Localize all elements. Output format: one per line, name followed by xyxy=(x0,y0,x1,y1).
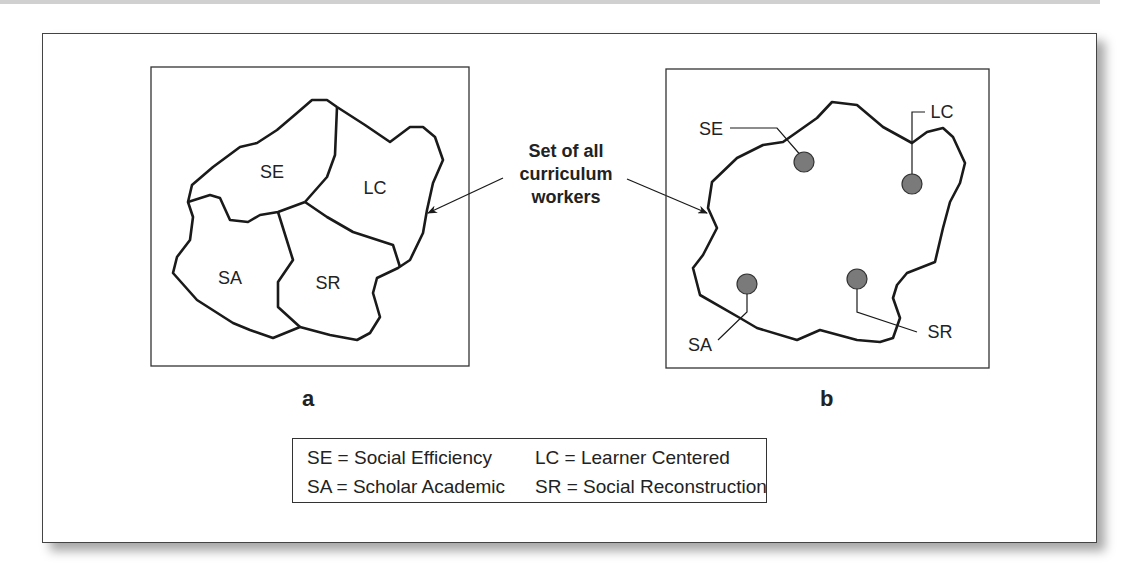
legend: SE = Social Efficiency LC = Learner Cent… xyxy=(292,438,767,503)
legend-item-lc: LC = Learner Centered xyxy=(535,445,767,473)
callout-line-sa xyxy=(718,293,747,340)
point-label-se: SE xyxy=(699,119,723,139)
legend-item-sa: SA = Scholar Academic xyxy=(307,474,535,502)
callout-line-lc xyxy=(912,112,925,176)
boundary-lc-sr xyxy=(305,202,400,267)
region-label-se: SE xyxy=(260,162,284,182)
callout-line-se xyxy=(730,128,803,158)
annotation-line-1: Set of all xyxy=(528,141,603,161)
panel-b-label: b xyxy=(820,386,833,412)
panel-a: SE LC SA SR xyxy=(151,67,469,366)
point-label-sa: SA xyxy=(688,335,712,355)
annotation: Set of all curriculum workers xyxy=(428,141,707,213)
arrow-right-icon xyxy=(627,179,707,213)
boundary-se-lc xyxy=(305,107,337,202)
legend-item-se: SE = Social Efficiency xyxy=(307,445,535,473)
panel-a-box xyxy=(151,67,469,366)
panel-b: SE LC SA SR xyxy=(666,69,989,368)
boundary-se-sa xyxy=(188,195,305,222)
legend-item-sr: SR = Social Reconstruction xyxy=(535,474,767,502)
annotation-line-2: curriculum xyxy=(519,164,612,184)
point-lc xyxy=(902,174,922,194)
point-label-sr: SR xyxy=(927,322,952,342)
panel-b-outline xyxy=(693,102,965,342)
point-sr xyxy=(847,269,867,289)
arrow-left-icon xyxy=(428,178,503,213)
region-label-sa: SA xyxy=(218,268,242,288)
panel-a-outline xyxy=(173,100,443,340)
region-label-lc: LC xyxy=(363,178,386,198)
boundary-sa-sr xyxy=(278,212,300,327)
annotation-line-3: workers xyxy=(530,187,600,207)
point-sa xyxy=(737,274,757,294)
panel-a-label: a xyxy=(302,386,314,412)
callout-line-sr xyxy=(857,288,917,332)
region-label-sr: SR xyxy=(315,273,340,293)
point-label-lc: LC xyxy=(930,102,953,122)
point-se xyxy=(794,152,814,172)
